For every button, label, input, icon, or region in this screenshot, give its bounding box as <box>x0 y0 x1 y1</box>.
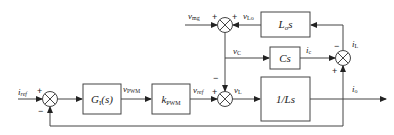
block-kpwm: kPWM <box>152 84 190 114</box>
sign-sum1-minus: − <box>38 106 43 116</box>
summing-junction-1 <box>43 92 58 107</box>
label-io: io <box>352 84 358 94</box>
label-vref: vref <box>193 85 205 95</box>
svg-text:GI(s): GI(s) <box>91 93 113 107</box>
summing-junction-2 <box>218 92 233 107</box>
block-cs: Cs <box>270 47 300 69</box>
sign-sum4-plus: + <box>332 66 337 76</box>
summing-junction-4 <box>336 51 351 66</box>
block-inv-ls: 1/Ls <box>261 77 310 121</box>
label-il: iL <box>352 39 359 49</box>
label-vc: vC <box>233 46 241 56</box>
sign-sum1-plus: + <box>37 86 42 96</box>
label-vmg: vmg <box>188 11 200 21</box>
label-vpwm: vPWM <box>123 84 140 94</box>
svg-text:1/Ls: 1/Ls <box>276 93 295 105</box>
label-ic: ic <box>306 45 312 55</box>
block-diagram: GI(s) kPWM Los Cs 1/Ls iref vPWM vref vL… <box>0 0 394 135</box>
sign-sum4-minus: − <box>334 41 339 51</box>
label-iref: iref <box>18 87 28 97</box>
block-gi: GI(s) <box>83 84 121 114</box>
label-vl: vL <box>234 85 242 95</box>
sign-sum3-plus-right: + <box>232 12 237 22</box>
block-los: Los <box>261 12 310 37</box>
svg-text:Cs: Cs <box>279 52 291 64</box>
summing-junction-3 <box>218 18 233 33</box>
sign-sum2-minus: − <box>213 73 218 83</box>
label-vlo: vLo <box>243 11 254 21</box>
sign-sum2-plus: + <box>212 87 217 97</box>
sign-sum3-plus-left: + <box>212 12 217 22</box>
